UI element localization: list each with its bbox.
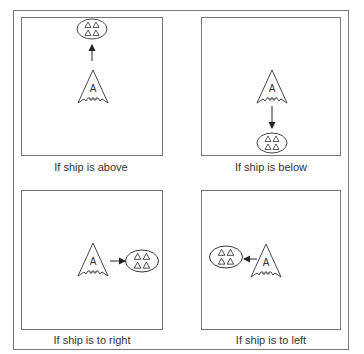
ship-icon: A (251, 244, 281, 277)
caption-above: If ship is above (54, 161, 127, 173)
group-icon (257, 133, 287, 153)
panel-left: A If ship is to left (202, 191, 341, 347)
outer-frame (14, 11, 349, 350)
ship-label: A (263, 257, 270, 268)
ship-label: A (90, 83, 97, 94)
ship-direction-diagram: A If ship is above A If ship is below A … (0, 0, 364, 354)
ship-icon: A (78, 70, 108, 103)
panel-right: A If ship is to right (22, 191, 163, 347)
group-icon (126, 250, 159, 272)
ship-icon: A (78, 243, 108, 276)
ship-label: A (90, 256, 97, 267)
ship-icon: A (257, 70, 287, 103)
caption-right: If ship is to right (53, 334, 130, 346)
group-icon (210, 246, 243, 268)
panel-above: A If ship is above (22, 18, 163, 174)
group-icon (77, 19, 107, 39)
panel-below: A If ship is below (202, 18, 341, 174)
caption-left: If ship is to left (236, 334, 306, 346)
caption-below: If ship is below (235, 161, 307, 173)
ship-label: A (269, 83, 276, 94)
